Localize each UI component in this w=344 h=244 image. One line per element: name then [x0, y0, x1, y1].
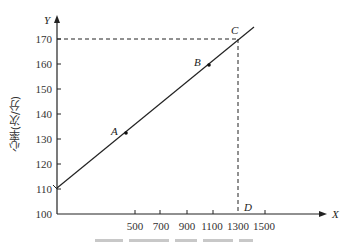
point-b-marker	[207, 63, 211, 67]
point-a-marker	[124, 131, 128, 135]
y-tick-label: 110	[36, 183, 53, 195]
point-a-label: A	[110, 125, 118, 137]
chart-canvas: Y X 170 160 150 140 130 120 110 100 500 …	[0, 0, 344, 244]
y-tick-labels: 170 160 150 140 130 120 110 100	[36, 33, 53, 220]
x-tick-label: 1500	[253, 220, 276, 232]
x-axis-name: X	[331, 208, 340, 220]
x-axis-arrow-icon	[319, 211, 327, 217]
y-tick-label: 170	[36, 33, 53, 45]
x-tick-label: 700	[153, 220, 170, 232]
y-tick-label: 140	[36, 108, 53, 120]
data-line	[57, 27, 254, 188]
y-axis-name: Y	[44, 14, 52, 26]
y-tick-label: 100	[36, 208, 53, 220]
y-axis-arrow-icon	[54, 15, 60, 23]
x-tick-label: 1100	[201, 220, 223, 232]
y-tick-label: 120	[36, 158, 53, 170]
x-tick-labels: 500 700 900 1100 1300 1500	[127, 220, 276, 232]
y-tick-label: 150	[36, 83, 53, 95]
x-tick-label: 500	[127, 220, 144, 232]
point-d-label: D	[243, 201, 252, 213]
point-c-label: C	[231, 24, 239, 36]
y-tick-label: 160	[36, 58, 53, 70]
x-tick-label: 900	[179, 220, 196, 232]
y-axis-label: 心率(次/分)	[8, 96, 24, 152]
y-tick-label: 130	[36, 133, 53, 145]
caption-cutoff	[95, 239, 270, 244]
point-b-label: B	[194, 56, 201, 68]
x-tick-label: 1300	[227, 220, 250, 232]
